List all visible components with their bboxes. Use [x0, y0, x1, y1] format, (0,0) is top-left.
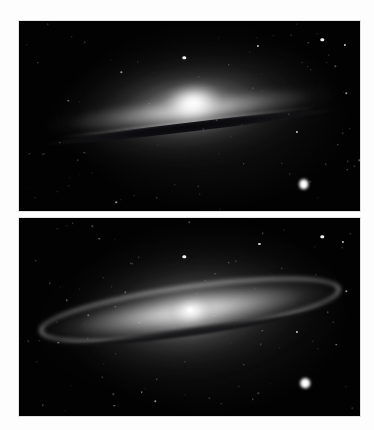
- galaxy-sombrero-edge-on: [19, 21, 360, 211]
- star-point: [299, 180, 309, 190]
- image-panel-bottom[interactable]: [19, 218, 360, 416]
- figure-page: [0, 0, 374, 430]
- galaxy-nucleus: [187, 308, 193, 313]
- star-point: [301, 379, 311, 389]
- image-panel-top[interactable]: [19, 21, 360, 211]
- sky-background-top: [19, 21, 360, 211]
- sky-background-bottom: [19, 218, 360, 416]
